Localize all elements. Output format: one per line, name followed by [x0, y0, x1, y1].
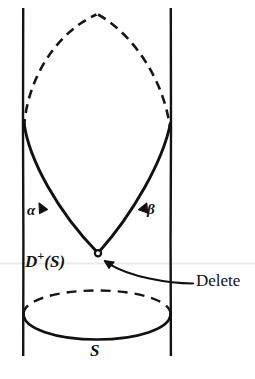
- label-alpha: α: [27, 203, 35, 218]
- delete-callout-arrow: [109, 264, 194, 284]
- label-delete: Delete: [196, 272, 240, 289]
- label-d-plus-s: D+(S): [25, 250, 65, 270]
- alpha-arrowhead-icon: [39, 203, 48, 214]
- label-beta: β: [147, 202, 155, 217]
- vertex-point-icon: [95, 250, 101, 256]
- upper-dashed-arch-right: [98, 15, 170, 129]
- surface-ellipse-back: [24, 291, 171, 315]
- label-s: S: [90, 342, 99, 359]
- right-solid-null-ray: [99, 123, 171, 253]
- left-solid-null-ray: [24, 123, 98, 253]
- figure-container: α β D+(S) S Delete: [0, 0, 255, 379]
- figure-drawing: [0, 0, 255, 379]
- upper-dashed-arch-left: [24, 15, 97, 129]
- label-d-plus-s-base: D: [25, 252, 37, 271]
- surface-ellipse-front: [24, 314, 171, 340]
- label-d-plus-s-argument: (S): [44, 252, 65, 271]
